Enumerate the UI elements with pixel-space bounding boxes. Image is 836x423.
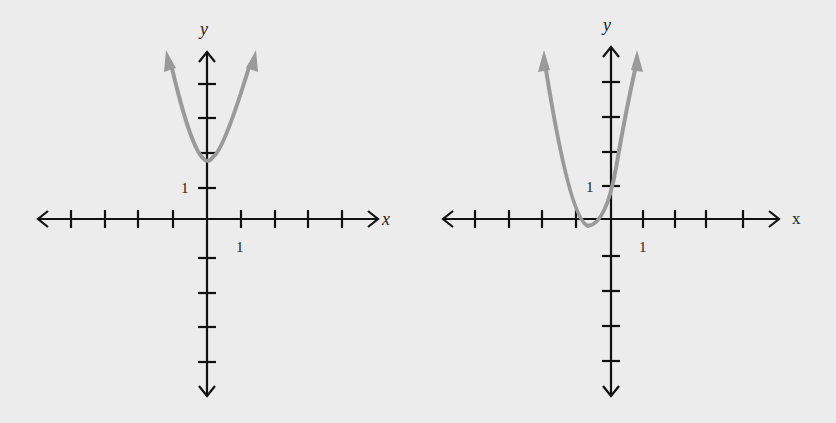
x-axis-label: x — [792, 209, 801, 228]
x-tick-label: 1 — [236, 239, 244, 255]
y-tick-label: 1 — [586, 179, 594, 195]
graph-2: x y 1 1 — [443, 15, 801, 396]
x-tick-label: 1 — [639, 239, 647, 255]
y-axis-label: y — [601, 15, 611, 35]
parabola-curve-2 — [546, 70, 635, 226]
graph-1: x y 1 1 — [38, 19, 390, 396]
curve-arrow-left-icon — [164, 50, 176, 72]
y-tick-label: 1 — [181, 180, 189, 196]
curve-arrow-right-icon — [631, 50, 643, 72]
y-axis-label: y — [198, 19, 208, 39]
x-axis-label: x — [381, 209, 390, 229]
chart-canvas: x y 1 1 — [0, 0, 836, 423]
parabola-curve-1 — [171, 64, 250, 161]
curve-arrow-left-icon — [538, 50, 550, 72]
